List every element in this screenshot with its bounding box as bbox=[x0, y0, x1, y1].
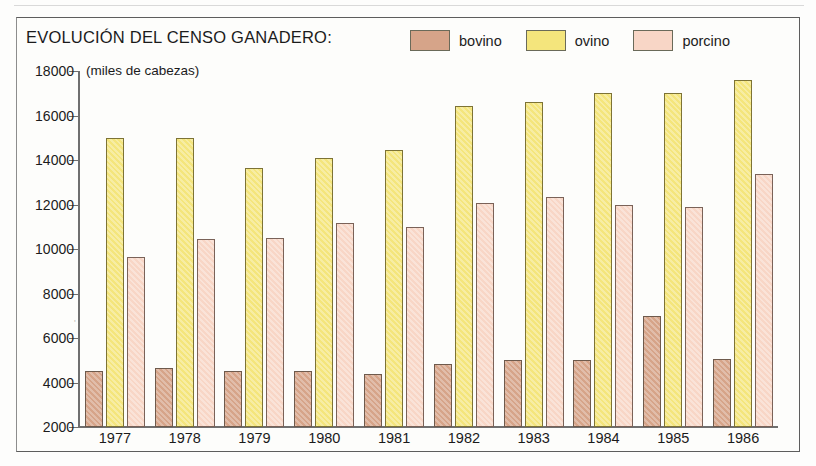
bar-group-1983 bbox=[499, 66, 569, 427]
bar-bovino-1983 bbox=[504, 360, 522, 427]
bar-porcino-1977 bbox=[127, 257, 145, 427]
bar-porcino-1984 bbox=[615, 205, 633, 428]
bar-group-1978 bbox=[150, 66, 220, 427]
plot-area: 1800016000140001200010000800060004000200… bbox=[78, 66, 778, 430]
chart-legend: bovino ovino porcino bbox=[410, 30, 730, 51]
bar-group-1980 bbox=[289, 66, 359, 427]
legend-swatch-ovino bbox=[526, 30, 566, 51]
legend-label-ovino: ovino bbox=[575, 33, 610, 49]
bar-bovino-1977 bbox=[85, 371, 103, 427]
x-label-1981: 1981 bbox=[359, 430, 429, 446]
bar-porcino-1980 bbox=[336, 223, 354, 427]
x-label-1977: 1977 bbox=[80, 430, 150, 446]
y-tick-label-4000: 4000 bbox=[4, 375, 74, 391]
x-label-1985: 1985 bbox=[638, 430, 708, 446]
bar-group-1986 bbox=[708, 66, 778, 427]
y-tick-label-14000: 14000 bbox=[4, 152, 74, 168]
bar-bovino-1979 bbox=[224, 371, 242, 427]
bar-ovino-1979 bbox=[245, 168, 263, 427]
y-tick-label-18000: 18000 bbox=[4, 63, 74, 79]
bar-ovino-1982 bbox=[455, 106, 473, 428]
bar-group-1981 bbox=[359, 66, 429, 427]
y-tick-label-12000: 12000 bbox=[4, 197, 74, 213]
x-label-1980: 1980 bbox=[289, 430, 359, 446]
legend-item-bovino: bovino bbox=[410, 30, 502, 51]
figure-page: EVOLUCIÓN DEL CENSO GANADERO: bovino ovi… bbox=[0, 0, 816, 466]
bar-groups bbox=[80, 66, 778, 427]
bar-bovino-1981 bbox=[364, 374, 382, 427]
bar-group-1982 bbox=[429, 66, 499, 427]
legend-label-bovino: bovino bbox=[459, 33, 502, 49]
bar-group-1979 bbox=[220, 66, 290, 427]
bar-group-1985 bbox=[638, 66, 708, 427]
y-tick-label-10000: 10000 bbox=[4, 241, 74, 257]
legend-label-porcino: porcino bbox=[682, 33, 730, 49]
legend-swatch-bovino bbox=[410, 30, 450, 51]
bar-ovino-1980 bbox=[315, 158, 333, 427]
legend-item-porcino: porcino bbox=[633, 30, 730, 51]
page-top-rule bbox=[14, 5, 804, 6]
bar-porcino-1978 bbox=[197, 239, 215, 427]
bar-porcino-1981 bbox=[406, 227, 424, 427]
x-label-1978: 1978 bbox=[150, 430, 220, 446]
x-label-1983: 1983 bbox=[499, 430, 569, 446]
bar-ovino-1981 bbox=[385, 150, 403, 427]
y-tick-label-8000: 8000 bbox=[4, 286, 74, 302]
y-tick-label-2000: 2000 bbox=[4, 419, 74, 435]
y-tick-label-16000: 16000 bbox=[4, 108, 74, 124]
x-label-1982: 1982 bbox=[429, 430, 499, 446]
bar-bovino-1985 bbox=[643, 316, 661, 427]
bar-porcino-1979 bbox=[266, 238, 284, 427]
x-label-1984: 1984 bbox=[569, 430, 639, 446]
x-axis-labels: 1977197819791980198119821983198419851986 bbox=[80, 430, 778, 446]
bar-ovino-1984 bbox=[594, 93, 612, 427]
bar-ovino-1986 bbox=[734, 80, 752, 427]
bar-group-1977 bbox=[80, 66, 150, 427]
bar-ovino-1977 bbox=[106, 138, 124, 427]
x-label-1986: 1986 bbox=[708, 430, 778, 446]
bar-porcino-1983 bbox=[546, 197, 564, 427]
bar-bovino-1986 bbox=[713, 359, 731, 427]
bar-bovino-1982 bbox=[434, 364, 452, 427]
bar-bovino-1978 bbox=[155, 368, 173, 427]
bar-ovino-1985 bbox=[664, 93, 682, 427]
bar-porcino-1982 bbox=[476, 203, 494, 427]
bar-group-1984 bbox=[569, 66, 639, 427]
bar-ovino-1978 bbox=[176, 138, 194, 427]
bar-bovino-1984 bbox=[573, 360, 591, 427]
bar-ovino-1983 bbox=[525, 102, 543, 427]
y-tick-label-6000: 6000 bbox=[4, 330, 74, 346]
x-label-1979: 1979 bbox=[220, 430, 290, 446]
legend-swatch-porcino bbox=[633, 30, 673, 51]
bar-porcino-1985 bbox=[685, 207, 703, 427]
chart-title: EVOLUCIÓN DEL CENSO GANADERO: bbox=[26, 28, 332, 47]
bar-porcino-1986 bbox=[755, 174, 773, 427]
bar-bovino-1980 bbox=[294, 371, 312, 427]
legend-item-ovino: ovino bbox=[526, 30, 610, 51]
stray-mark: ' bbox=[74, 318, 76, 328]
